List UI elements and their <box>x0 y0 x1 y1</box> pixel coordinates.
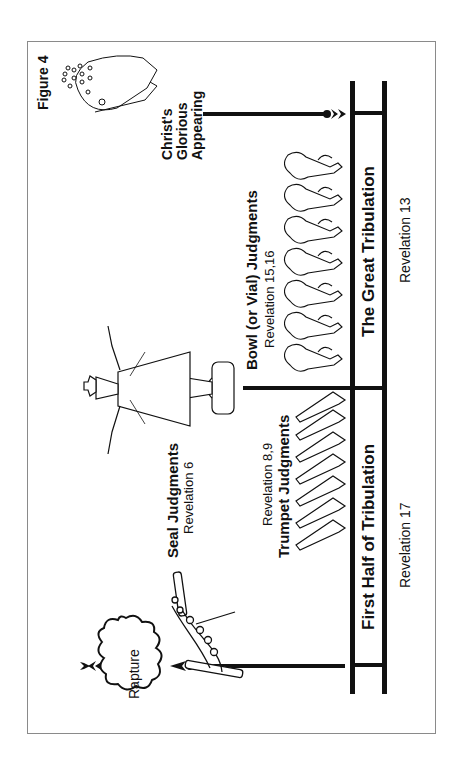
first-half-label: First Half of Tribulation <box>359 444 379 630</box>
diagram-artwork <box>0 0 462 768</box>
seal-judgments-reference: Revelation 6 <box>181 462 196 534</box>
christ-label-line2: Glorious <box>175 91 190 160</box>
bowl-judgments-title: Bowl (or Vial) Judgments <box>243 190 260 370</box>
rapture-label: Rapture <box>126 649 142 699</box>
christ-appearing-arrow-icon <box>203 109 346 119</box>
christ-appearing-label: Christ's Glorious Appearing <box>160 91 205 160</box>
trumpet-judgments-title: Trumpet Judgments <box>275 415 292 558</box>
great-tribulation-reference: Revelation 13 <box>397 197 413 283</box>
figure-label: Figure 4 <box>35 56 51 110</box>
christ-with-saints-icon <box>62 56 157 112</box>
christ-label-line3: Appearing <box>190 91 205 160</box>
trumpet-judgments-reference: Revelation 8,9 <box>260 443 275 526</box>
seal-judgments-title: Seal Judgments <box>164 443 181 558</box>
first-half-reference: Revelation 17 <box>397 502 413 588</box>
bowl-judgments-reference: Revelation 15,16 <box>262 250 277 348</box>
great-tribulation-label: The Great Tribulation <box>359 166 379 337</box>
seal-scroll-icon <box>172 572 243 678</box>
bowl-icons <box>284 152 342 371</box>
trumpet-icons <box>296 392 345 550</box>
christ-label-line1: Christ's <box>160 91 175 160</box>
